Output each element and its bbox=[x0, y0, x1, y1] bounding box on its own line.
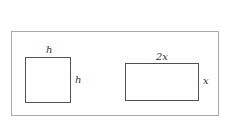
square-side-label: h bbox=[75, 75, 81, 85]
square bbox=[25, 57, 71, 103]
rectangle-top-label: 2x bbox=[156, 52, 168, 62]
rectangle bbox=[125, 63, 199, 101]
rectangle-side-label: x bbox=[203, 76, 209, 86]
square-top-label: h bbox=[46, 45, 52, 55]
